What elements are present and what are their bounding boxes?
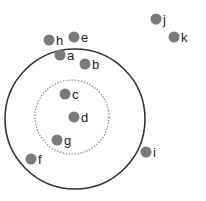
diagram-canvas: h e a b c d g f i j k	[0, 0, 206, 201]
point-i: i	[141, 145, 157, 160]
svg-text:j: j	[162, 12, 166, 27]
svg-text:h: h	[56, 33, 63, 48]
point-h: h	[44, 33, 64, 48]
svg-text:e: e	[81, 30, 88, 45]
svg-text:c: c	[72, 87, 79, 102]
svg-text:b: b	[92, 57, 99, 72]
svg-text:i: i	[153, 145, 156, 160]
point-b: b	[80, 57, 100, 72]
svg-text:a: a	[67, 48, 75, 63]
svg-text:f: f	[38, 152, 42, 167]
point-g: g	[52, 133, 72, 148]
point-j: j	[151, 12, 167, 27]
point-d: d	[69, 110, 89, 125]
svg-text:g: g	[64, 133, 71, 148]
svg-text:k: k	[181, 30, 188, 45]
svg-text:d: d	[81, 110, 88, 125]
point-c: c	[60, 87, 80, 102]
point-f: f	[26, 152, 43, 167]
point-e: e	[69, 30, 89, 45]
point-k: k	[169, 30, 189, 45]
